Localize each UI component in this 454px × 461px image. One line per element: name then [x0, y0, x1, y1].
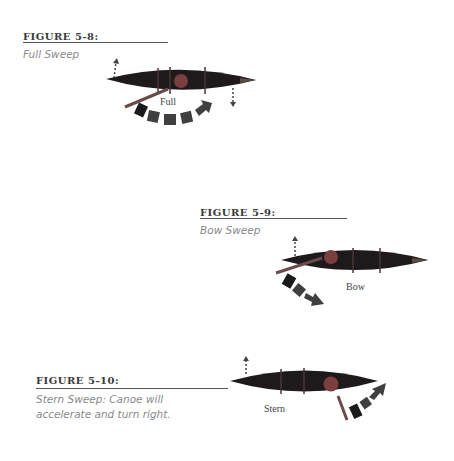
bow-label: Bow: [346, 281, 365, 292]
figure-5-9-rule: [200, 218, 347, 219]
canoe-full-sweep: [106, 58, 256, 125]
stern-label: Stern: [264, 403, 285, 414]
figure-5-10-rule: [36, 388, 228, 389]
figure-5-9-caption: Bow Sweep: [200, 223, 260, 238]
figure-5-8-caption: Full Sweep: [23, 47, 79, 62]
figure-5-9-title: FIGURE 5-9:: [200, 207, 276, 218]
caption-line-1: Stern Sweep: Canoe will: [36, 392, 171, 407]
figure-5-8-title: FIGURE 5-8:: [23, 31, 99, 42]
canoe-stern-sweep: [230, 356, 386, 420]
caption-line-2: accelerate and turn right.: [36, 407, 171, 422]
full-label: Full: [160, 96, 176, 107]
figure-5-8-rule: [23, 42, 168, 43]
canoe-bow-sweep: [276, 236, 428, 306]
figure-5-10-title: FIGURE 5-10:: [36, 375, 119, 386]
figure-5-10-caption: Stern Sweep: Canoe will accelerate and t…: [36, 392, 171, 422]
